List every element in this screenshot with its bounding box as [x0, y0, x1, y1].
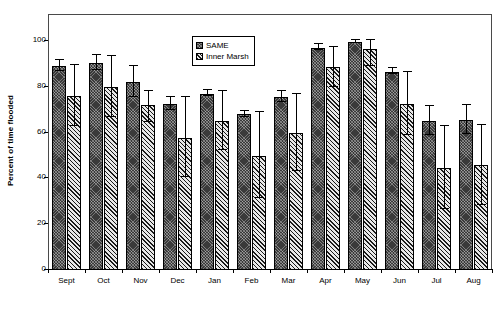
- y-tick-label: 40: [24, 173, 46, 181]
- y-axis-ticks: 020406080100: [20, 0, 46, 309]
- bar-may-inner-marsh: [363, 49, 377, 270]
- x-tick-label-mar: Mar: [282, 276, 296, 285]
- bar-apr-same: [311, 48, 325, 270]
- bar-oct-same: [89, 63, 103, 270]
- x-tick-label-feb: Feb: [245, 276, 259, 285]
- error-bar-aug-same: [462, 104, 471, 134]
- legend-label-same: SAME: [206, 41, 229, 50]
- x-tick-label-sept: Sept: [58, 276, 74, 285]
- x-tick-mark: [159, 269, 160, 273]
- x-tick-mark: [270, 269, 271, 273]
- x-tick-mark: [48, 269, 49, 273]
- y-tick-label: 80: [24, 82, 46, 90]
- same-swatch-icon: [196, 42, 203, 49]
- error-bar-dec-same: [166, 96, 175, 110]
- bar-mar-same: [274, 97, 288, 270]
- inner-marsh-swatch-icon: [196, 53, 203, 60]
- error-bar-apr-inner-marsh: [329, 46, 338, 87]
- error-bar-jun-inner-marsh: [403, 71, 412, 135]
- bar-sept-same: [52, 66, 66, 270]
- plot-area: [48, 14, 492, 270]
- error-bar-mar-inner-marsh: [292, 93, 301, 171]
- error-bar-jul-same: [425, 105, 434, 135]
- error-bar-nov-inner-marsh: [144, 90, 153, 122]
- x-tick-mark: [455, 269, 456, 273]
- error-bar-may-same: [351, 39, 360, 44]
- y-tick-label: 100: [24, 36, 46, 44]
- bar-jan-same: [200, 94, 214, 270]
- error-bar-mar-same: [277, 90, 286, 101]
- y-axis-title-text: Percent of time flooded: [7, 94, 16, 185]
- error-bar-feb-same: [240, 110, 249, 117]
- legend-item-inner-marsh[interactable]: Inner Marsh: [196, 51, 249, 61]
- bar-nov-inner-marsh: [141, 105, 155, 270]
- error-bar-apr-same: [314, 43, 323, 50]
- x-tick-label-nov: Nov: [133, 276, 147, 285]
- error-bar-sept-inner-marsh: [70, 64, 79, 126]
- bar-jul-same: [422, 121, 436, 270]
- x-tick-mark: [418, 269, 419, 273]
- error-bar-jun-same: [388, 67, 397, 74]
- bar-may-same: [348, 42, 362, 270]
- x-tick-mark: [122, 269, 123, 273]
- bar-jun-same: [385, 72, 399, 270]
- error-bar-nov-same: [129, 65, 138, 97]
- bar-chart-figure: Percent of time flooded 020406080100 SAM…: [0, 0, 504, 309]
- error-bar-oct-inner-marsh: [107, 55, 116, 117]
- legend-item-same[interactable]: SAME: [196, 40, 249, 50]
- error-bar-jan-same: [203, 89, 212, 96]
- x-tick-label-oct: Oct: [97, 276, 109, 285]
- x-tick-label-jul: Jul: [431, 276, 441, 285]
- y-axis-title: Percent of time flooded: [4, 0, 18, 280]
- x-tick-label-apr: Apr: [319, 276, 331, 285]
- bar-aug-same: [459, 120, 473, 270]
- bar-dec-same: [163, 104, 177, 270]
- y-tick-label: 0: [24, 265, 46, 273]
- x-tick-mark: [344, 269, 345, 273]
- x-tick-label-jan: Jan: [208, 276, 221, 285]
- error-bar-may-inner-marsh: [366, 39, 375, 66]
- x-tick-mark: [381, 269, 382, 273]
- y-tick-label: 60: [24, 128, 46, 136]
- x-tick-mark: [307, 269, 308, 273]
- legend: SAME Inner Marsh: [192, 36, 255, 66]
- bar-nov-same: [126, 82, 140, 270]
- x-tick-mark: [85, 269, 86, 273]
- legend-label-inner-marsh: Inner Marsh: [206, 52, 249, 61]
- error-bar-dec-inner-marsh: [181, 96, 190, 177]
- x-tick-label-jun: Jun: [393, 276, 406, 285]
- x-tick-mark: [492, 269, 493, 273]
- error-bar-aug-inner-marsh: [477, 124, 486, 205]
- error-bar-jul-inner-marsh: [440, 125, 449, 210]
- error-bar-feb-inner-marsh: [255, 111, 264, 198]
- x-tick-label-may: May: [355, 276, 370, 285]
- error-bar-sept-same: [55, 59, 64, 70]
- x-tick-label-dec: Dec: [170, 276, 184, 285]
- bar-apr-inner-marsh: [326, 67, 340, 270]
- x-tick-mark: [233, 269, 234, 273]
- x-tick-mark: [196, 269, 197, 273]
- error-bar-oct-same: [92, 54, 101, 70]
- y-tick-label: 20: [24, 219, 46, 227]
- bar-feb-same: [237, 114, 251, 270]
- error-bar-jan-inner-marsh: [218, 90, 227, 150]
- x-tick-label-aug: Aug: [466, 276, 480, 285]
